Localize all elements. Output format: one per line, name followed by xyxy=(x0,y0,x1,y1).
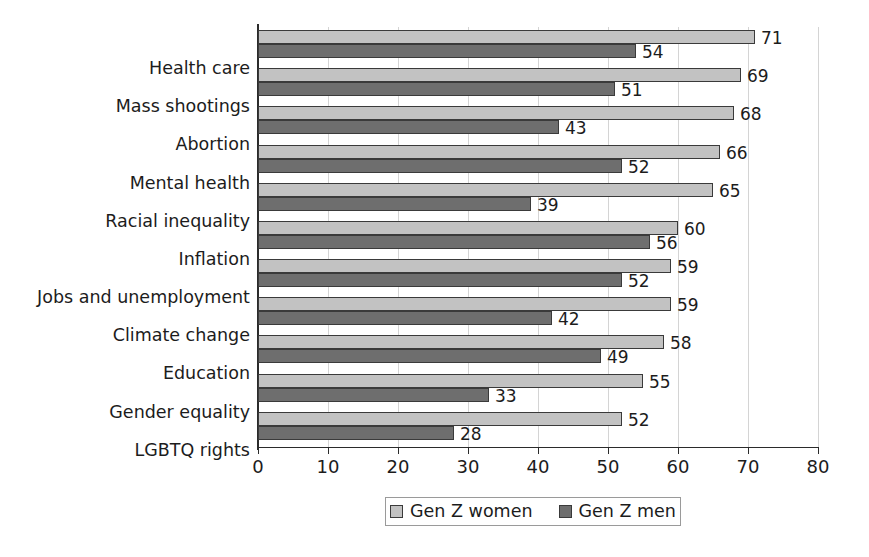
category-label-education: Education xyxy=(2,363,250,383)
bar-women-climate-change xyxy=(258,297,671,311)
bar-value-women-jobs-and-unemployment: 59 xyxy=(677,260,699,274)
category-label-mental-health: Mental health xyxy=(2,173,250,193)
bar-women-racial-inequality xyxy=(258,183,713,197)
bar-value-women-abortion: 68 xyxy=(740,107,762,121)
gridline-80 xyxy=(818,27,819,447)
bar-value-men-education: 49 xyxy=(607,350,629,364)
bar-men-gender-equality xyxy=(258,388,489,402)
category-label-racial-inequality: Racial inequality xyxy=(2,211,250,231)
bar-value-women-inflation: 60 xyxy=(684,222,706,236)
bar-men-health-care xyxy=(258,44,636,58)
bar-value-men-lgbtq-rights: 28 xyxy=(460,427,482,441)
bar-value-women-lgbtq-rights: 52 xyxy=(628,413,650,427)
x-tick-mark-10 xyxy=(328,447,329,454)
category-label-mass-shootings: Mass shootings xyxy=(2,96,250,116)
x-tick-mark-40 xyxy=(538,447,539,454)
x-tick-mark-80 xyxy=(818,447,819,454)
bar-chart: Health careMass shootingsAbortionMental … xyxy=(0,0,869,557)
bar-women-inflation xyxy=(258,221,678,235)
bar-men-lgbtq-rights xyxy=(258,426,454,440)
bar-women-gender-equality xyxy=(258,374,643,388)
bar-value-women-mass-shootings: 69 xyxy=(747,69,769,83)
bar-men-abortion xyxy=(258,120,559,134)
category-label-health-care: Health care xyxy=(2,58,250,78)
x-tick-label-60: 60 xyxy=(667,456,690,478)
bar-value-men-climate-change: 42 xyxy=(558,312,580,326)
bar-women-mass-shootings xyxy=(258,68,741,82)
bar-value-women-health-care: 71 xyxy=(761,31,783,45)
bar-women-mental-health xyxy=(258,145,720,159)
x-tick-mark-30 xyxy=(468,447,469,454)
bar-men-education xyxy=(258,349,601,363)
bar-value-men-abortion: 43 xyxy=(565,121,587,135)
bar-women-health-care xyxy=(258,30,755,44)
x-tick-label-20: 20 xyxy=(387,456,410,478)
bar-men-mental-health xyxy=(258,159,622,173)
bar-value-women-racial-inequality: 65 xyxy=(719,184,741,198)
bar-value-men-racial-inequality: 39 xyxy=(537,198,559,212)
x-tick-label-70: 70 xyxy=(737,456,760,478)
x-tick-mark-20 xyxy=(398,447,399,454)
bar-women-lgbtq-rights xyxy=(258,412,622,426)
gridline-60 xyxy=(678,27,679,447)
bar-men-climate-change xyxy=(258,311,552,325)
bar-value-men-mental-health: 52 xyxy=(628,160,650,174)
x-tick-label-80: 80 xyxy=(807,456,830,478)
bar-value-women-gender-equality: 55 xyxy=(649,375,671,389)
x-tick-label-40: 40 xyxy=(527,456,550,478)
bar-value-men-jobs-and-unemployment: 52 xyxy=(628,274,650,288)
x-tick-label-30: 30 xyxy=(457,456,480,478)
category-axis-labels: Health careMass shootingsAbortionMental … xyxy=(0,27,250,447)
bar-men-racial-inequality xyxy=(258,197,531,211)
bar-women-jobs-and-unemployment xyxy=(258,259,671,273)
bar-value-women-mental-health: 66 xyxy=(726,146,748,160)
bar-value-men-inflation: 56 xyxy=(656,236,678,250)
x-tick-label-50: 50 xyxy=(597,456,620,478)
legend-swatch-icon-women xyxy=(390,505,403,518)
bar-value-women-climate-change: 59 xyxy=(677,298,699,312)
x-tick-mark-60 xyxy=(678,447,679,454)
legend-label-women: Gen Z women xyxy=(410,502,532,521)
x-tick-label-0: 0 xyxy=(252,456,263,478)
category-label-gender-equality: Gender equality xyxy=(2,402,250,422)
bar-value-men-mass-shootings: 51 xyxy=(621,83,643,97)
category-label-jobs-and-unemployment: Jobs and unemployment xyxy=(2,287,250,307)
bar-women-education xyxy=(258,335,664,349)
bar-men-jobs-and-unemployment xyxy=(258,273,622,287)
legend-item-gen-z-men: Gen Z men xyxy=(559,502,676,521)
x-tick-mark-50 xyxy=(608,447,609,454)
category-label-climate-change: Climate change xyxy=(2,325,250,345)
x-tick-mark-70 xyxy=(748,447,749,454)
legend-item-gen-z-women: Gen Z women xyxy=(390,502,532,521)
bar-value-men-health-care: 54 xyxy=(642,45,664,59)
bar-men-inflation xyxy=(258,235,650,249)
bar-women-abortion xyxy=(258,106,734,120)
chart-legend: Gen Z women Gen Z men xyxy=(385,497,681,526)
gridline-70 xyxy=(748,27,749,447)
legend-swatch-icon-men xyxy=(559,505,572,518)
category-label-abortion: Abortion xyxy=(2,134,250,154)
legend-label-men: Gen Z men xyxy=(579,502,676,521)
bar-men-mass-shootings xyxy=(258,82,615,96)
bar-value-women-education: 58 xyxy=(670,336,692,350)
category-label-inflation: Inflation xyxy=(2,249,250,269)
x-tick-label-10: 10 xyxy=(317,456,340,478)
category-label-lgbtq-rights: LGBTQ rights xyxy=(2,440,250,460)
x-tick-mark-0 xyxy=(258,447,259,454)
bar-value-men-gender-equality: 33 xyxy=(495,389,517,403)
